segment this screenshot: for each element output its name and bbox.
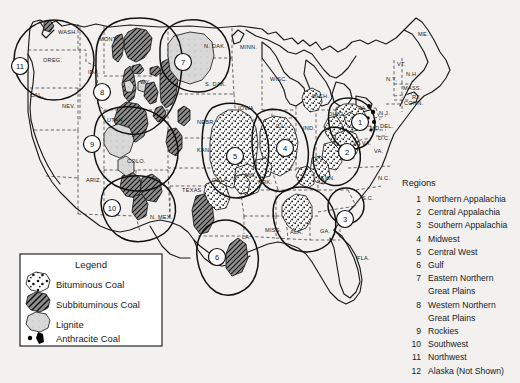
region-badge-3[interactable]: 3: [337, 211, 354, 228]
region-list-name: Great Plains: [428, 286, 475, 296]
state-label: IND.: [303, 125, 315, 131]
state-label: MASS.: [403, 85, 422, 91]
region-list-name: Alaska (Not Shown): [428, 366, 504, 376]
state-label: N.Y.: [386, 76, 397, 82]
state-label: ARIZ.: [86, 177, 102, 183]
state-label: TEXAS: [182, 187, 202, 193]
region-badge-2[interactable]: 2: [339, 144, 356, 161]
region-list-number: 11: [412, 352, 421, 362]
state-label: WISC.: [270, 76, 288, 82]
region-list-number: 12: [411, 366, 421, 376]
region-list-name: Gulf: [428, 260, 444, 270]
state-label: D.C.: [378, 135, 390, 141]
region-list-number: 10: [411, 339, 421, 349]
region-badge-label: 3: [343, 215, 347, 224]
state-label: N. DAK.: [204, 43, 226, 49]
region-list-item: 3Southern Appalachia: [416, 220, 507, 230]
legend-label-subbituminous: Subbituminous Coal: [56, 299, 140, 310]
legend-item-anthracite: Anthracite Coal: [28, 332, 120, 344]
state-label: CONN.: [404, 100, 423, 106]
state-label: IDA.: [88, 69, 100, 75]
region-badge-label: 7: [181, 58, 185, 67]
regions-list-title: Regions: [402, 178, 436, 188]
region-badge-label: 6: [215, 253, 219, 262]
state-label: TENN.: [317, 175, 335, 181]
state-label: PA.: [358, 105, 368, 111]
state-label: KAN.: [197, 147, 211, 153]
region-list-number: 9: [416, 326, 421, 336]
region-list-name: Western Northern: [428, 300, 496, 310]
legend-label-lignite: Lignite: [56, 319, 84, 330]
state-label: W. VA.: [353, 140, 371, 146]
region-badge-9[interactable]: 9: [84, 136, 101, 153]
region-list-name: Eastern Northern: [428, 273, 494, 283]
region-list-item: 6Gulf: [416, 260, 444, 270]
region-badge-label: 8: [100, 88, 104, 97]
state-label: ARK.: [258, 179, 272, 185]
state-label: DEL.: [380, 123, 394, 129]
state-label: S. DAK.: [205, 81, 227, 87]
region-list-number: 5: [416, 247, 421, 257]
state-label: NEV.: [62, 103, 76, 109]
region-list-item: Great Plains: [428, 313, 475, 323]
anthracite-swatch-icon: [28, 336, 32, 340]
map-svg: WASH.OREG.MONT.N. DAK.MINN.ME.IDA.S. DAK…: [0, 0, 520, 383]
state-label: N. MEX.: [150, 214, 173, 220]
region-list-name: Northwest: [428, 352, 467, 362]
region-list-name: Midwest: [428, 234, 460, 244]
region-badge-5[interactable]: 5: [227, 148, 244, 165]
state-label: KY.: [315, 157, 324, 163]
region-badge-6[interactable]: 6: [209, 249, 226, 266]
region-badge-8[interactable]: 8: [94, 84, 111, 101]
region-badge-10[interactable]: 10: [104, 200, 121, 217]
region-list-number: 6: [416, 260, 421, 270]
state-label: ALA.: [290, 229, 303, 235]
state-label: OKLA.: [212, 177, 230, 183]
region-list-name: Great Plains: [428, 313, 475, 323]
state-label: VA.: [374, 148, 384, 154]
region-list-number: 1: [416, 194, 421, 204]
region-list-item: 11Northwest: [412, 352, 467, 362]
region-list-number: 3: [416, 220, 421, 230]
state-label: FLA.: [357, 255, 370, 261]
region-list-name: Northern Appalachia: [428, 194, 506, 204]
state-label: COLO.: [127, 158, 146, 164]
region-list-item: 2Central Appalachia: [416, 207, 500, 217]
state-label: WY.: [140, 79, 151, 85]
region-badge-7[interactable]: 7: [175, 54, 192, 71]
state-label: LA.: [242, 234, 251, 240]
state-label: MONT.: [99, 36, 118, 42]
region-badge-label: 10: [108, 204, 116, 213]
region-list-item: Great Plains: [428, 286, 475, 296]
region-badge-1[interactable]: 1: [352, 114, 369, 131]
region-badge-11[interactable]: 11: [12, 58, 29, 75]
state-label: GA.: [320, 228, 331, 234]
region-badge-label: 2: [345, 148, 349, 157]
region-badge-4[interactable]: 4: [277, 140, 294, 157]
state-label: N.H.: [406, 71, 418, 77]
state-label: UTAH: [107, 117, 123, 123]
region-list-number: 4: [416, 234, 421, 244]
state-label: MICH.: [312, 93, 329, 99]
coal-fields-map-figure: WASH.OREG.MONT.N. DAK.MINN.ME.IDA.S. DAK…: [0, 0, 520, 383]
region-badge-label: 5: [233, 152, 237, 161]
region-list-name: Central West: [428, 247, 478, 257]
state-label: N.J.: [379, 110, 390, 116]
state-label: OREG.: [43, 57, 62, 63]
state-label: WASH.: [58, 29, 78, 35]
region-list-number: 8: [416, 300, 421, 310]
state-label: N.C.: [378, 175, 390, 181]
state-label: ILL.: [276, 123, 287, 129]
state-label: CAL.: [30, 92, 44, 98]
state-label: OHIO: [328, 111, 344, 117]
region-list-number: 2: [416, 207, 421, 217]
state-label: NEBR.: [197, 119, 216, 125]
region-list-name: Southern Appalachia: [428, 220, 508, 230]
state-label: MISS.: [265, 227, 282, 233]
region-badge-label: 1: [358, 118, 362, 127]
legend-label-bituminous: Bituminous Coal: [56, 279, 124, 290]
legend: Legend Bituminous Coal Subbituminous Coa…: [20, 254, 162, 346]
region-list-name: Southwest: [428, 339, 469, 349]
state-label: S.C.: [362, 195, 374, 201]
legend-title: Legend: [75, 259, 107, 270]
